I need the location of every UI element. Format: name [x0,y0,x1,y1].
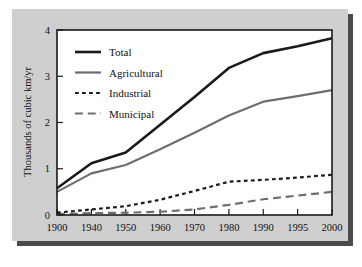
y-axis-tick-labels: 01234 [45,25,51,221]
x-tick-label: 1900 [47,222,68,233]
x-tick-label: 1980 [218,222,239,233]
water-use-line-chart: 01234 1900194019501960197019801990199520… [0,0,362,267]
x-tick-label: 2000 [322,222,343,233]
x-tick-label: 1970 [184,222,205,233]
figure-root: 01234 1900194019501960197019801990199520… [0,0,362,267]
x-tick-label: 1940 [81,222,102,233]
x-tick-label: 1950 [115,222,136,233]
y-tick-label: 3 [45,71,50,82]
y-tick-label: 1 [45,163,50,174]
x-tick-label: 1990 [253,222,274,233]
y-axis-title: Thousands of cubic km/yr [22,67,33,177]
x-tick-label: 1995 [287,222,308,233]
x-tick-label: 1960 [150,222,171,233]
legend-label-agricultural: Agricultural [109,67,163,79]
y-tick-label: 4 [45,25,51,36]
legend-label-municipal: Municipal [109,108,154,120]
legend-label-industrial: Industrial [109,87,151,99]
legend-label-total: Total [109,46,131,58]
y-tick-label: 0 [45,210,50,221]
x-axis-tick-labels: 190019401950196019701980199019952000 [47,222,343,233]
y-tick-label: 2 [45,117,50,128]
plot-area-background [57,30,332,215]
